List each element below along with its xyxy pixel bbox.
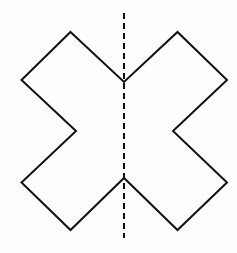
diagram-svg (0, 0, 237, 253)
x-shape-polygon (22, 32, 228, 230)
diagram-canvas (0, 0, 237, 253)
